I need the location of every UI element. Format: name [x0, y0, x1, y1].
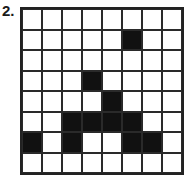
grid-cell	[62, 91, 82, 112]
pixel-grid	[20, 7, 184, 175]
grid-cell	[142, 91, 162, 112]
grid-cell	[22, 153, 42, 174]
grid-cell	[22, 9, 42, 30]
grid-cell	[82, 71, 102, 92]
grid-cell	[142, 9, 162, 30]
grid-cell	[142, 132, 162, 153]
grid-cell	[102, 30, 122, 51]
grid-cell	[82, 91, 102, 112]
grid-cell	[62, 9, 82, 30]
grid-cell	[102, 9, 122, 30]
grid-cell	[62, 30, 82, 51]
grid-cell	[22, 112, 42, 133]
grid-cell	[102, 71, 122, 92]
grid-cell	[162, 153, 182, 174]
grid-cell	[42, 153, 62, 174]
grid-cell	[82, 153, 102, 174]
grid-cell	[122, 112, 142, 133]
grid-cell	[22, 71, 42, 92]
grid-cell	[162, 9, 182, 30]
grid-cell	[122, 153, 142, 174]
grid-cell	[42, 91, 62, 112]
grid-cell	[62, 71, 82, 92]
grid-cell	[162, 71, 182, 92]
grid-cell	[122, 9, 142, 30]
grid-cell	[82, 50, 102, 71]
grid-cell	[162, 91, 182, 112]
grid-cell	[42, 71, 62, 92]
grid-cell	[102, 153, 122, 174]
grid-cell	[122, 132, 142, 153]
grid-cell	[62, 50, 82, 71]
grid-cell	[102, 50, 122, 71]
grid-cell	[162, 50, 182, 71]
problem-number: 2.	[2, 2, 15, 19]
grid-cell	[82, 30, 102, 51]
grid-cell	[142, 30, 162, 51]
grid-cell	[162, 112, 182, 133]
grid-cell	[62, 132, 82, 153]
grid-cell	[122, 71, 142, 92]
grid-cell	[142, 112, 162, 133]
grid-cell	[22, 132, 42, 153]
grid-cell	[82, 112, 102, 133]
grid-cell	[102, 112, 122, 133]
grid-cell	[142, 71, 162, 92]
grid-cell	[22, 30, 42, 51]
grid-cell	[162, 132, 182, 153]
grid-cell	[42, 50, 62, 71]
grid-cell	[42, 112, 62, 133]
grid-cell	[42, 30, 62, 51]
grid-cell	[122, 91, 142, 112]
grid-cell	[22, 50, 42, 71]
grid-cell	[122, 30, 142, 51]
grid-cell	[142, 153, 162, 174]
grid-cell	[122, 50, 142, 71]
grid-cell	[82, 132, 102, 153]
grid-cell	[162, 30, 182, 51]
grid-cell	[62, 112, 82, 133]
grid-cell	[42, 9, 62, 30]
grid-cell	[82, 9, 102, 30]
grid-cell	[102, 91, 122, 112]
grid-cell	[62, 153, 82, 174]
grid-cell	[102, 132, 122, 153]
grid-cell	[142, 50, 162, 71]
grid-cell	[42, 132, 62, 153]
grid-cell	[22, 91, 42, 112]
